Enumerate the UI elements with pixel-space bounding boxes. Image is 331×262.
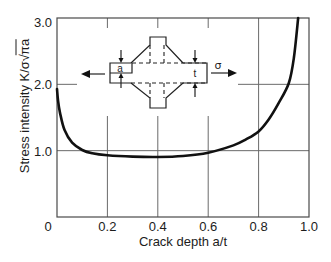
crack-depth-label: a bbox=[117, 63, 123, 74]
thickness-label: t bbox=[194, 68, 197, 79]
y-tick-label: 3.0 bbox=[34, 15, 52, 30]
x-tick-label: 0.4 bbox=[149, 219, 167, 234]
y-tick-label: 1.0 bbox=[34, 144, 52, 159]
y-axis-title: Stress intensity K/σ√πa bbox=[17, 39, 32, 173]
stress-label: σ bbox=[215, 59, 222, 72]
x-axis-title: Crack depth a/t bbox=[139, 234, 228, 249]
x-tick-label: 0.8 bbox=[250, 219, 268, 234]
y-tick-label: 2.0 bbox=[34, 77, 52, 92]
chart-canvas: a t σ 00.20.40.60.81.01.02.03.0 bbox=[0, 0, 331, 262]
inset-background bbox=[77, 28, 238, 116]
y-axis-title-radicand: πa bbox=[16, 39, 32, 55]
x-tick-label: 0.2 bbox=[98, 219, 116, 234]
x-tick-label: 1.0 bbox=[300, 219, 318, 234]
x-tick-label: 0 bbox=[44, 219, 51, 234]
y-axis-title-main: Stress intensity K/σ bbox=[17, 61, 32, 173]
x-tick-label: 0.6 bbox=[199, 219, 217, 234]
chart-figure: a t σ 00.20.40.60.81.01.02.03.0 bbox=[0, 0, 331, 262]
